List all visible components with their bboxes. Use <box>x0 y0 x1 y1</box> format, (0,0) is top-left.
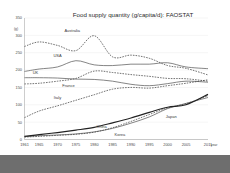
y-tick-label: 350 <box>16 15 23 20</box>
line-chart: 050100150200250300350 196119651970197519… <box>0 0 230 155</box>
y-tick-label: 200 <box>16 67 23 72</box>
slide-canvas: 050100150200250300350 196119651970197519… <box>0 0 230 173</box>
y-axis-label: (g) <box>14 27 18 31</box>
y-tick-label: 150 <box>16 85 23 90</box>
y-tick-label: 300 <box>16 33 23 38</box>
series-label-japan: Japan <box>166 114 177 119</box>
series-label-china: China <box>96 124 107 129</box>
series-line-korea <box>25 96 209 137</box>
series-label-usa: USA <box>53 53 62 58</box>
y-axis-tick-labels: 050100150200250300350 <box>16 15 23 141</box>
x-tick-label: 1995 <box>145 142 154 147</box>
x-tick-label: 1961 <box>20 142 29 147</box>
series-line-australia <box>25 36 209 75</box>
series-line-usa <box>25 61 209 72</box>
x-tick-label: 1965 <box>35 142 44 147</box>
x-tick-label: 1985 <box>108 142 117 147</box>
series-line-japan <box>25 94 209 136</box>
series-line-italy <box>25 80 209 118</box>
y-tick-label: 50 <box>18 120 23 125</box>
x-tick-label: 1990 <box>127 142 136 147</box>
y-tick-label: 100 <box>16 102 23 107</box>
series-paths <box>25 36 209 137</box>
x-tick-label: 1970 <box>53 142 62 147</box>
x-axis-label: year <box>211 143 218 147</box>
chart-title: Food supply quantity (g/capita/d): FAOST… <box>73 11 194 18</box>
x-tick-label: 1975 <box>72 142 81 147</box>
series-label-france: France <box>62 83 75 88</box>
x-tick-label: 1980 <box>90 142 99 147</box>
x-axis-tick-labels: 1961196519701975198019851990199520002005… <box>20 142 212 147</box>
slide-footer-bar <box>0 155 230 173</box>
x-tick-label: 2005 <box>182 142 191 147</box>
chart-svg: 050100150200250300350 196119651970197519… <box>0 0 230 155</box>
series-label-australia: Australia <box>64 28 80 33</box>
series-line-china <box>25 98 209 137</box>
x-tick-label: 2000 <box>163 142 172 147</box>
y-tick-label: 250 <box>16 50 23 55</box>
series-label-korea: Korea <box>115 132 126 137</box>
gridlines <box>25 18 209 140</box>
series-label-uk: UK <box>33 70 39 75</box>
series-label-italy: Italy <box>54 95 61 100</box>
